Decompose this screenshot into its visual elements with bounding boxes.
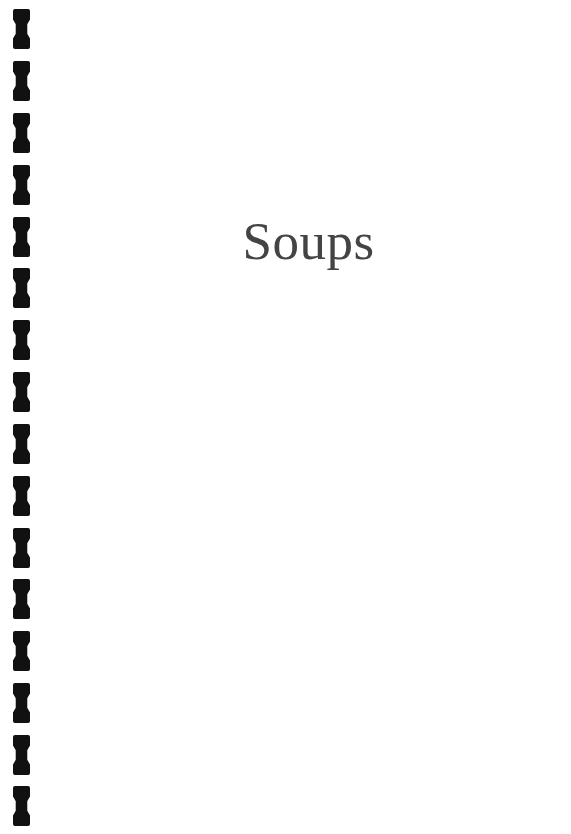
spiral-binding-hole-icon (13, 61, 30, 101)
spiral-binding-hole-icon (13, 113, 30, 153)
spiral-binding-hole-icon (13, 217, 30, 257)
spiral-binding-hole-icon (13, 372, 30, 412)
spiral-binding-hole-icon (13, 165, 30, 205)
spiral-binding-hole-icon (13, 320, 30, 360)
spiral-binding-hole-icon (13, 528, 30, 568)
spiral-binding-hole-icon (13, 735, 30, 775)
document-page: Soups (0, 0, 571, 834)
spiral-binding-hole-icon (13, 631, 30, 671)
spiral-binding-hole-icon (13, 786, 30, 826)
spiral-binding-hole-icon (13, 476, 30, 516)
page-content-area: Soups (46, 0, 571, 834)
spiral-binding-strip (0, 0, 46, 834)
spiral-binding-hole-icon (13, 579, 30, 619)
spiral-binding-hole-icon (13, 268, 30, 308)
page-title: Soups (46, 214, 571, 270)
spiral-binding-hole-icon (13, 9, 30, 49)
spiral-binding-hole-icon (13, 683, 30, 723)
spiral-binding-hole-icon (13, 424, 30, 464)
